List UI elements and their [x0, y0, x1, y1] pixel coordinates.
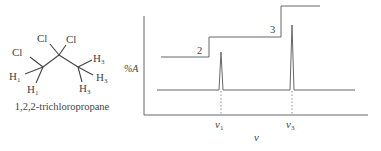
molecule-atoms: Cl Cl Cl H1 H1 H3 H3 H3	[9, 32, 108, 97]
atom-cl-2: Cl	[37, 32, 47, 44]
atom-h3-b: H3	[96, 71, 108, 85]
molecule-structure	[25, 44, 93, 83]
atom-h3-a: H3	[93, 52, 105, 66]
step-label-3: 3	[270, 24, 275, 35]
atom-h1-b: H1	[27, 83, 39, 97]
atom-h1-a: H1	[9, 70, 21, 84]
figure: Cl Cl Cl H1 H1 H3 H3 H3 1,2,2-trichlorop…	[0, 0, 381, 151]
molecule-name: 1,2,2-trichloropropane	[15, 101, 110, 112]
atom-cl-1: Cl	[12, 46, 22, 58]
integral-step-curve	[161, 6, 320, 57]
tick-label-v1: ν1	[215, 118, 224, 132]
tick-label-v3: ν3	[286, 118, 295, 132]
bond-c2-cl-a	[50, 44, 59, 55]
step-label-2: 2	[197, 45, 202, 56]
atom-cl-3: Cl	[66, 33, 76, 45]
bond-c2-c3	[59, 55, 78, 67]
atom-h3-c: H3	[79, 82, 91, 96]
y-axis-label: %A	[124, 63, 139, 74]
spectrum-chart: 2 3 %A ν ν1 ν3	[124, 6, 368, 143]
bond-c1-cl	[30, 57, 43, 67]
bond-c3-h3a	[78, 60, 92, 67]
bond-c1-c2	[43, 55, 59, 67]
x-axis-label: ν	[254, 131, 259, 143]
bond-c2-cl-b	[59, 45, 66, 55]
